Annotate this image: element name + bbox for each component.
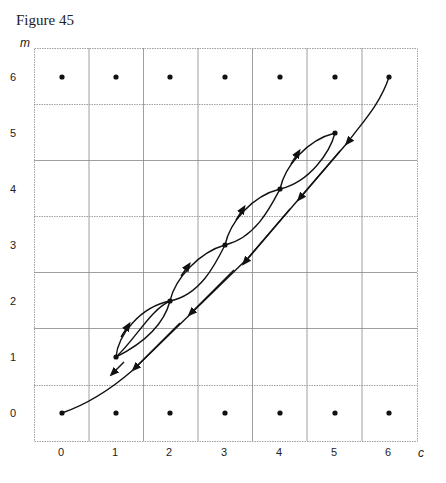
x-tick-5: 5 (331, 446, 337, 458)
y-tick-1: 1 (10, 351, 16, 363)
lens-loops (116, 133, 335, 357)
y-axis-label: m (20, 36, 30, 50)
y-tick-3: 3 (10, 239, 16, 251)
x-tick-2: 2 (166, 446, 172, 458)
y-tick-4: 4 (10, 183, 16, 195)
x-tick-0: 0 (58, 446, 64, 458)
x-axis-label: c (418, 446, 424, 460)
x-tick-6: 6 (385, 446, 391, 458)
y-tick-0: 0 (10, 407, 16, 419)
y-tick-6: 6 (10, 71, 16, 83)
phase-diagram: 6 5 4 3 2 1 0 m 0 1 2 3 4 5 6 c (0, 0, 446, 483)
x-tick-3: 3 (221, 446, 227, 458)
x-tick-1: 1 (112, 446, 118, 458)
y-tick-5: 5 (10, 127, 16, 139)
y-tick-2: 2 (10, 295, 16, 307)
x-tick-4: 4 (276, 446, 282, 458)
